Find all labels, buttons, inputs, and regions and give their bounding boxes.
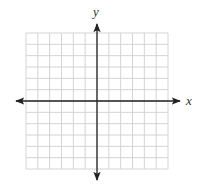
coordinate-plane: x y	[0, 0, 205, 187]
x-axis-label: x	[185, 93, 192, 108]
y-axis-label: y	[91, 4, 99, 19]
